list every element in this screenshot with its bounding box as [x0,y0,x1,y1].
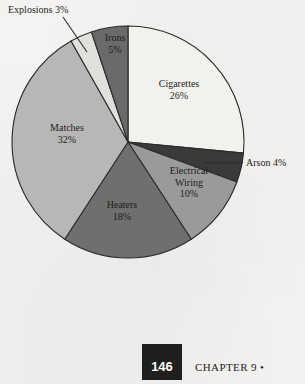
page-footer: 146 CHAPTER 9 • [0,338,305,384]
slice-callout-arson: Arson 4% [246,157,286,169]
document-page: Cigarettes 26% Matches 32% Heaters 18% E… [0,0,305,384]
pie-slice-group [12,26,244,258]
page-number: 146 [142,360,182,374]
chapter-label: CHAPTER 9 • [195,360,264,374]
pie-chart-svg [0,0,305,300]
pie-chart: Cigarettes 26% Matches 32% Heaters 18% E… [0,0,305,300]
pie-slice-cigarettes [128,26,244,153]
slice-callout-explosions: Explosions 3% [8,4,68,16]
